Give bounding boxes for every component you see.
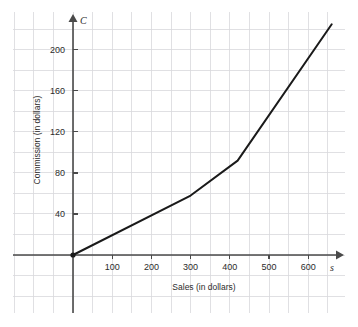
y-axis-title: Commission (in dollars) — [32, 95, 42, 184]
y-tick-label: 40 — [55, 209, 65, 219]
x-tick-label: 100 — [105, 262, 120, 272]
y-tick-label: 80 — [55, 168, 65, 178]
x-tick-label: 500 — [261, 262, 276, 272]
x-tick-label: 600 — [301, 262, 316, 272]
commission-vs-sales-chart: 100200300400500600 4080120160200 C s Sal… — [0, 0, 358, 327]
x-axis-title: Sales (in dollars) — [172, 282, 235, 292]
y-tick-label: 120 — [50, 127, 65, 137]
y-tick-label: 160 — [50, 86, 65, 96]
y-axis-variable-label: C — [80, 15, 87, 26]
origin-point-marker — [70, 252, 75, 257]
x-tick-label: 400 — [222, 262, 237, 272]
x-axis-variable-label: s — [330, 262, 334, 273]
x-tick-label: 300 — [183, 262, 198, 272]
chart-canvas: 100200300400500600 4080120160200 C s Sal… — [0, 0, 358, 327]
x-tick-label: 200 — [144, 262, 159, 272]
y-tick-label: 200 — [50, 45, 65, 55]
